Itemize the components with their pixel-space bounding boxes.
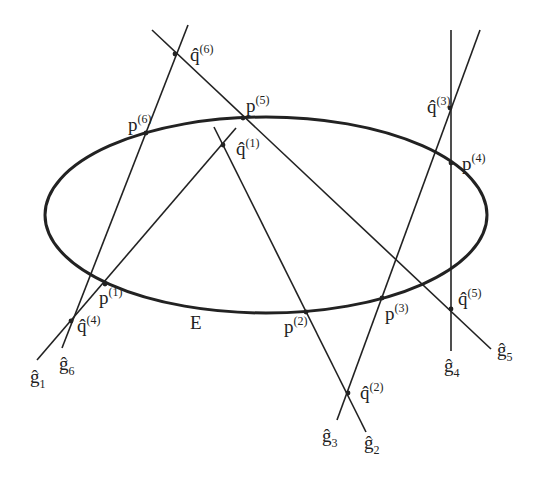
q-hat-label-5: q̂(5) bbox=[458, 286, 482, 309]
p-label-3: p(3) bbox=[385, 301, 409, 324]
line-label-g4: ĝ4 bbox=[444, 355, 460, 380]
p-label-1: p(1) bbox=[99, 285, 123, 308]
line-label-g2: ĝ2 bbox=[364, 432, 380, 457]
line-g6 bbox=[62, 25, 188, 348]
ellipse-e bbox=[45, 117, 487, 313]
q-hat-label-4: q̂(4) bbox=[77, 313, 101, 336]
q-hat-label-3: q̂(3) bbox=[427, 94, 451, 117]
line-label-g5: ĝ5 bbox=[497, 339, 513, 364]
q-hat-label-6: q̂(6) bbox=[190, 42, 214, 65]
ellipse-label: E bbox=[190, 312, 202, 333]
labels-layer: p(1)p(2)p(3)p(4)p(5)p(6)q̂(1)q̂(2)q̂(3)q… bbox=[30, 42, 513, 457]
p-point-4 bbox=[449, 161, 454, 166]
lines-layer bbox=[37, 25, 491, 432]
line-g1 bbox=[37, 128, 236, 360]
q-hat-label-2: q̂(2) bbox=[360, 380, 384, 403]
p-point-1 bbox=[103, 282, 108, 287]
line-label-g3: ĝ3 bbox=[322, 425, 338, 450]
line-g2 bbox=[214, 127, 366, 432]
line-g5 bbox=[152, 30, 491, 349]
ellipse-lines-diagram: p(1)p(2)p(3)p(4)p(5)p(6)q̂(1)q̂(2)q̂(3)q… bbox=[0, 0, 536, 480]
p-point-5 bbox=[241, 116, 246, 121]
p-point-3 bbox=[380, 296, 385, 301]
q-hat-point-4 bbox=[69, 319, 74, 324]
q-hat-point-2 bbox=[346, 391, 351, 396]
p-point-6 bbox=[144, 131, 149, 136]
p-label-5: p(5) bbox=[246, 93, 270, 116]
p-label-4: p(4) bbox=[462, 151, 486, 174]
p-label-2: p(2) bbox=[284, 314, 308, 337]
line-label-g1: ĝ1 bbox=[30, 366, 46, 391]
line-label-g6: ĝ6 bbox=[59, 353, 75, 378]
q-hat-label-1: q̂(1) bbox=[236, 136, 260, 159]
q-hat-point-6 bbox=[173, 52, 178, 57]
q-hat-point-5 bbox=[449, 307, 454, 312]
q-hat-point-1 bbox=[221, 143, 226, 148]
